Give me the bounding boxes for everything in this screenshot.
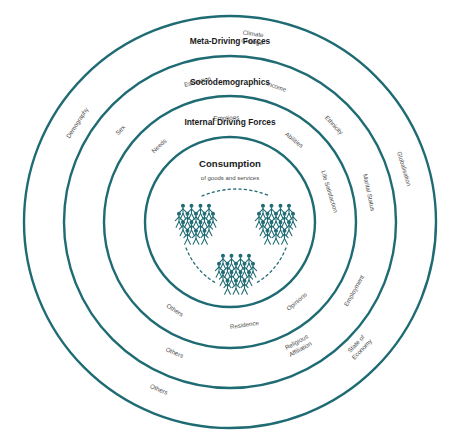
people-clusters-group [175, 204, 296, 294]
ring-label-employment: Employment [342, 274, 365, 308]
ring-title-sociodemographics: Sociodemographics [190, 77, 270, 87]
ring-label-state-of-economy: State ofEconomy [344, 331, 373, 361]
people-cluster-left [175, 204, 216, 244]
ring-circle-internal-driving-forces [104, 96, 356, 348]
ring-label-others: Others [165, 345, 185, 359]
ring-label-others: Others [149, 382, 169, 396]
ring-label-others: Others [165, 302, 184, 318]
ring-titles-group: Meta-Driving ForcesSociodemographicsInte… [184, 36, 276, 181]
arc-bottom-right [256, 248, 286, 283]
ring-subtitle-consumption: of goods and services [201, 175, 259, 181]
ring-label-religious-affiliation: ReligiousAffiliation [284, 332, 314, 358]
people-cluster-bottom [215, 254, 256, 294]
ring-label-life-satisfaction: Life Satisfaction [320, 170, 340, 214]
ring-label-demography: Demography [64, 105, 90, 139]
ring-label-opinions: Opinions [285, 291, 308, 312]
concentric-circle-diagram: DemographyClimateChangeGlobalisationStat… [0, 0, 460, 444]
ring-title-consumption: Consumption [199, 158, 261, 169]
ring-label-abilities: Abilities [284, 130, 305, 149]
ring-label-sex: Sex [114, 123, 127, 136]
people-cluster-right [255, 204, 296, 244]
ring-label-residence: Residence [229, 319, 259, 330]
ring-label-marital-status: Marital Status [362, 173, 377, 211]
ring-title-meta-driving-forces: Meta-Driving Forces [190, 36, 271, 46]
ring-circle-sociodemographics [64, 56, 396, 388]
ring-label-needs: Needs [150, 137, 168, 154]
ring-title-internal-driving-forces: Internal Driving Forces [184, 117, 276, 127]
diagram-canvas: DemographyClimateChangeGlobalisationStat… [0, 0, 460, 444]
arc-top [202, 189, 270, 196]
arc-bottom-left [186, 248, 216, 283]
ring-label-globalisation: Globalisation [396, 151, 413, 188]
ring-label-ethnicity: Ethnicity [324, 114, 346, 137]
